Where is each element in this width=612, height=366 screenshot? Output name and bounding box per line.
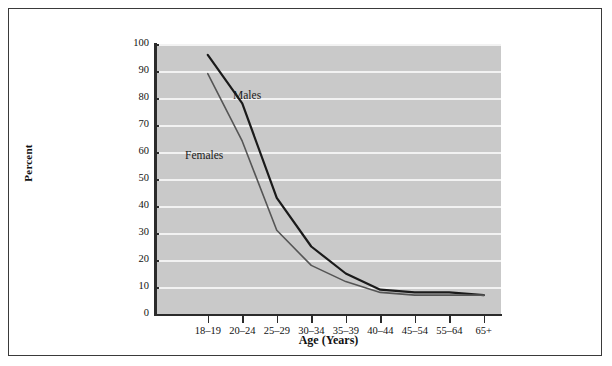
series-line-females	[208, 74, 484, 295]
series-label-females: Females	[185, 149, 223, 161]
x-axis-title: Age (Years)	[156, 333, 501, 348]
y-axis-title: Percent	[22, 118, 34, 208]
figure-frame: 0102030405060708090100 18–1920–2425–2930…	[8, 8, 602, 356]
series-lines	[9, 9, 603, 357]
series-label-males: Males	[233, 89, 261, 101]
line-chart: 0102030405060708090100 18–1920–2425–2930…	[9, 9, 603, 357]
